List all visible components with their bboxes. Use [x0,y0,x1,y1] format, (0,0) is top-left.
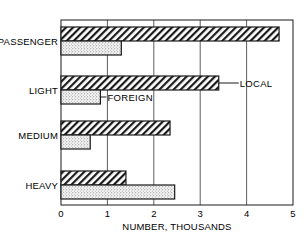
x-tick-label: 5 [290,208,295,219]
x-tick-label: 3 [198,208,203,219]
bar-heavy-foreign [61,185,175,199]
x-tick-label: 1 [105,208,110,219]
bar-light-foreign [61,90,100,104]
x-axis-label: NUMBER, THOUSANDS [122,221,231,232]
bar-chart: PASSENGERLIGHTMEDIUMHEAVY 012345 NUMBER,… [0,0,308,242]
bar-heavy-local [61,171,126,185]
x-tick-label: 2 [151,208,156,219]
x-tick-label: 4 [244,208,249,219]
category-label: PASSENGER [0,36,58,47]
category-label: HEAVY [25,180,58,191]
category-label: MEDIUM [18,130,58,141]
annotation-label: LOCAL [240,78,273,89]
x-tick-labels: 012345 [58,208,295,219]
bar-light-local [61,76,219,90]
bar-medium-local [61,121,170,135]
gridlines [107,20,246,205]
bar-medium-foreign [61,135,90,149]
category-label: LIGHT [29,85,58,96]
bar-passenger-foreign [61,41,121,55]
category-labels: PASSENGERLIGHTMEDIUMHEAVY [0,36,58,191]
x-tick-label: 0 [58,208,63,219]
bar-passenger-local [61,27,279,41]
annotation-label: FOREIGN [107,92,152,103]
